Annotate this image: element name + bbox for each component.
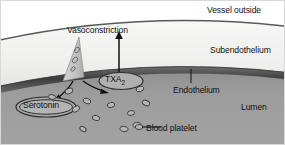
platelet xyxy=(120,126,129,132)
label-txa2-subscript: 2 xyxy=(121,79,124,86)
label-lumen: Lumen xyxy=(241,102,267,112)
label-txa2: TXA2 xyxy=(105,74,125,86)
diagram-canvas xyxy=(1,1,285,145)
vessel-diagram: Vessel outside Subendothelium Endotheliu… xyxy=(0,0,285,145)
label-txa2-main: TXA xyxy=(105,74,121,84)
label-endothelium: Endothelium xyxy=(173,85,220,95)
label-blood-platelet: Blood platelet xyxy=(146,123,197,133)
platelet xyxy=(135,125,143,130)
label-vasoconstriction: Vasoconstriction xyxy=(67,25,128,35)
label-subendothelium: Subendothelium xyxy=(210,45,271,55)
label-serotonin: Serotonin xyxy=(23,100,59,110)
label-vessel-outside: Vessel outside xyxy=(207,5,261,15)
